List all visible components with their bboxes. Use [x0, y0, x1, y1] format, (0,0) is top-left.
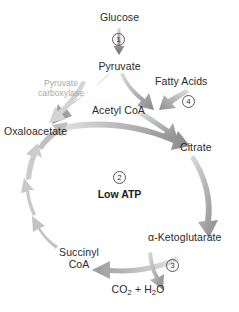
succinyl-coa-line-2: CoA: [69, 258, 90, 270]
node-fatty-acids: Fatty Acids: [155, 76, 237, 88]
node-pyruvate: Pyruvate: [0, 61, 239, 73]
co2-text: CO: [112, 283, 128, 295]
arrow-cycle-left-segment-3: [26, 143, 42, 180]
node-acetyl-coa: Acetyl CoA: [92, 105, 172, 117]
node-glucose: Glucose: [0, 12, 239, 24]
node-succinyl-coa: Succinyl CoA: [48, 247, 110, 270]
node-alpha-ketoglutarate: α-Ketoglutarate: [148, 232, 239, 244]
metabolic-pathway-diagram: Glucose Pyruvate Fatty Acids Acetyl CoA …: [0, 0, 239, 312]
succinyl-coa-line-1: Succinyl: [59, 246, 99, 258]
arrow-cycle-left-segment-1: [32, 216, 58, 249]
enzyme-label-line-1: Pyruvate: [44, 78, 78, 88]
node-co2-h2o: CO2 + H2O: [100, 284, 176, 299]
plus-h-text: + H: [132, 283, 152, 295]
node-citrate: Citrate: [180, 142, 238, 154]
h2o-oxygen-text: O: [156, 283, 164, 295]
step-badge-2: 2: [113, 171, 126, 184]
center-label-low-atp: Low ATP: [0, 188, 239, 200]
step-badge-1: 1: [112, 33, 125, 46]
step-badge-3: 3: [166, 259, 179, 272]
node-oxaloacetate: Oxaloacetate: [4, 126, 84, 138]
step-badge-4: 4: [182, 95, 195, 108]
enzyme-label-line-2: carboxylase: [38, 88, 84, 98]
enzyme-label-pyruvate-carboxylase: Pyruvate carboxylase: [27, 79, 95, 98]
pathway-arrows: [0, 0, 239, 312]
